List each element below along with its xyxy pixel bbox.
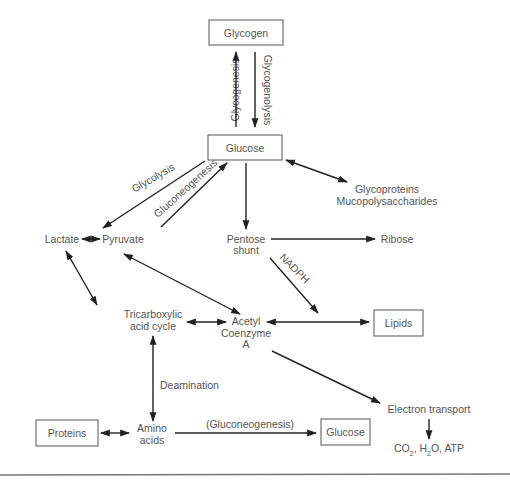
pentose-label: Pentose bbox=[227, 233, 266, 245]
tca-label-line2: acid cycle bbox=[130, 320, 176, 332]
glycogenesis-edge-label: Glycogenesis bbox=[229, 58, 241, 121]
lactate-tca-arrow bbox=[66, 251, 97, 305]
glucose-top-label: Glucose bbox=[226, 142, 265, 154]
electron-transport-label: Electron transport bbox=[388, 403, 471, 415]
products-label: CO2, H2O, ATP bbox=[394, 442, 464, 457]
gluconeogenesis-paren-edge-label: (Gluconeogenesis) bbox=[206, 418, 294, 430]
acetyl-electron-arrow bbox=[272, 351, 380, 403]
glucose-bottom-label: Glucose bbox=[326, 426, 365, 438]
lipids-label: Lipids bbox=[385, 317, 412, 329]
acetyl-label-line3: A bbox=[242, 338, 249, 350]
pyruvate-label: Pyruvate bbox=[102, 233, 144, 245]
glycogenolysis-edge-label: Glycogenolysis bbox=[262, 55, 274, 126]
deamination-edge-label: Deamination bbox=[160, 379, 219, 391]
acetyl-label-line2: Coenzyme bbox=[221, 327, 271, 339]
glycolysis-edge-label: Glycolysis bbox=[130, 161, 177, 195]
tca-label-line1: Tricarboxylic bbox=[124, 308, 183, 320]
amino-label-line1: Amino bbox=[137, 422, 167, 434]
bottom-rule bbox=[0, 474, 510, 475]
nadph-edge-label: NADPH bbox=[278, 251, 312, 285]
mucopolysaccharides-label: Mucopolysaccharides bbox=[337, 195, 438, 207]
glucose-glycoproteins-arrow bbox=[286, 160, 347, 182]
lactate-label: Lactate bbox=[45, 233, 80, 245]
metabolism-diagram: Glycogen Glucose Lipids Proteins Glucose… bbox=[0, 0, 510, 482]
ribose-label: Ribose bbox=[381, 233, 414, 245]
acetyl-label-line1: Acetyl bbox=[232, 315, 261, 327]
amino-label-line2: acids bbox=[140, 434, 165, 446]
glycoproteins-label: Glycoproteins bbox=[355, 183, 419, 195]
proteins-label: Proteins bbox=[48, 427, 87, 439]
pyruvate-acetyl-arrow bbox=[124, 254, 240, 314]
glycogen-label: Glycogen bbox=[224, 27, 269, 39]
shunt-label: shunt bbox=[233, 244, 259, 256]
